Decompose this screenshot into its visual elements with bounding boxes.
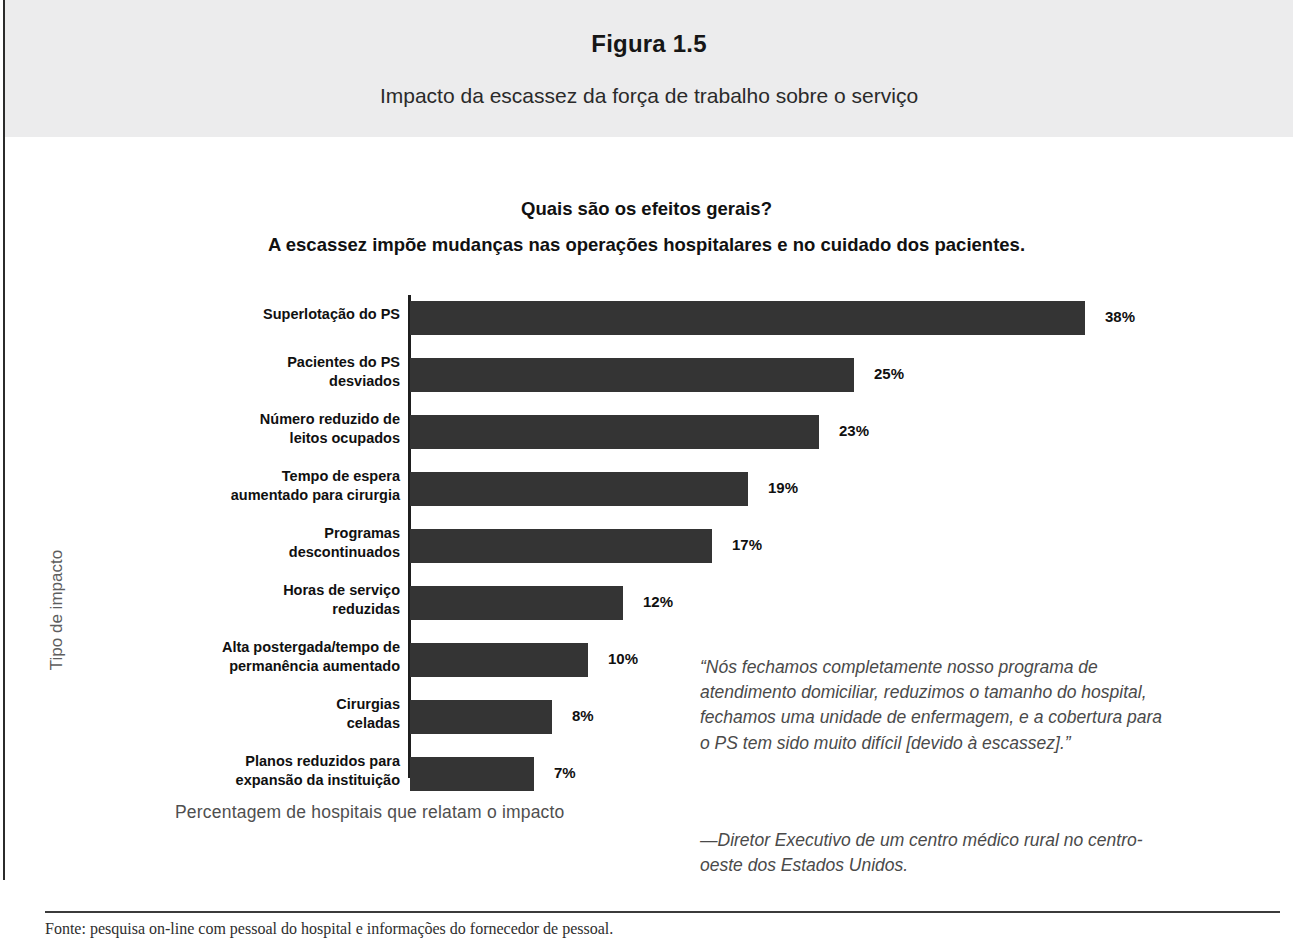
bar-rect — [410, 415, 819, 449]
bar-category-label: Cirurgias celadas — [100, 695, 400, 732]
bar-category-label: Tempo de espera aumentado para cirurgia — [100, 467, 400, 504]
bar-row: Programas descontinuados 17% — [0, 522, 1293, 579]
bar-rect — [410, 700, 552, 734]
bar-category-label: Planos reduzidos para expansão da instit… — [100, 752, 400, 789]
figure-caption: Impacto da escassez da força de trabalho… — [5, 84, 1293, 108]
bar-rect — [410, 301, 1085, 335]
x-axis-title: Percentagem de hospitais que relatam o i… — [175, 802, 565, 823]
bar-row: Superlotação do PS 38% — [0, 294, 1293, 351]
bar-value-label: 7% — [554, 764, 576, 781]
bar-category-label: Pacientes do PS desviados — [100, 353, 400, 390]
bar-rect — [410, 472, 748, 506]
bar-rect — [410, 643, 588, 677]
figure-number: Figura 1.5 — [5, 30, 1293, 58]
chart-statement-heading: A escassez impõe mudanças nas operações … — [0, 234, 1293, 256]
figure-header-band: Figura 1.5 Impacto da escassez da força … — [5, 0, 1293, 137]
bar-value-label: 38% — [1105, 308, 1135, 325]
bar-value-label: 25% — [874, 365, 904, 382]
bar-value-label: 17% — [732, 536, 762, 553]
footer-divider — [45, 911, 1280, 913]
bar-row: Número reduzido de leitos ocupados 23% — [0, 408, 1293, 465]
pull-quote-text: “Nós fechamos completamente nosso progra… — [700, 655, 1170, 756]
bar-category-label: Número reduzido de leitos ocupados — [100, 410, 400, 447]
bar-rect — [410, 358, 854, 392]
bar-row: Horas de serviço reduzidas 12% — [0, 579, 1293, 636]
footer-source-note: Fonte: pesquisa on-line com pessoal do h… — [45, 920, 1245, 938]
bar-value-label: 8% — [572, 707, 594, 724]
bar-value-label: 19% — [768, 479, 798, 496]
bar-value-label: 10% — [608, 650, 638, 667]
bar-category-label: Superlotação do PS — [100, 305, 400, 324]
bar-category-label: Programas descontinuados — [100, 524, 400, 561]
bar-row: Tempo de espera aumentado para cirurgia … — [0, 465, 1293, 522]
bar-rect — [410, 757, 534, 791]
y-axis-title: Tipo de impacto — [47, 515, 67, 705]
bar-row: Pacientes do PS desviados 25% — [0, 351, 1293, 408]
bar-rect — [410, 529, 712, 563]
bar-rect — [410, 586, 623, 620]
bar-value-label: 23% — [839, 422, 869, 439]
bar-category-label: Alta postergada/tempo de permanência aum… — [100, 638, 400, 675]
chart-question-heading: Quais são os efeitos gerais? — [0, 198, 1293, 220]
bar-category-label: Horas de serviço reduzidas — [100, 581, 400, 618]
bar-value-label: 12% — [643, 593, 673, 610]
pull-quote-attribution: —Diretor Executivo de um centro médico r… — [700, 828, 1170, 878]
